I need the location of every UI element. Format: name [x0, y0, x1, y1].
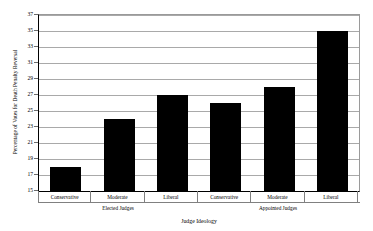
bar-chart: Percentage of Votes for Death Penalty Re…: [0, 0, 373, 231]
category-axis-label: Moderate: [251, 191, 304, 203]
bar: [264, 87, 295, 191]
y-axis-tick-label: 17: [18, 171, 33, 177]
y-axis-tick-label: 23: [18, 123, 33, 129]
bar: [157, 95, 188, 191]
category-axis-label: Liberal: [145, 191, 198, 203]
y-axis-tick-label: 31: [18, 59, 33, 65]
y-axis-tick-label: 37: [18, 11, 33, 17]
group-axis-label: Elected Judges: [38, 203, 198, 214]
y-axis-tick-label: 29: [18, 75, 33, 81]
category-axis: ConservativeModerateLiberalConservativeM…: [38, 191, 360, 203]
y-axis-tick-labels: 373533312927252321191715: [18, 14, 33, 190]
y-axis-tick-label: 27: [18, 91, 33, 97]
bar: [104, 119, 135, 191]
bar: [210, 103, 241, 191]
plot-area: [38, 14, 360, 192]
category-axis-label: Liberal: [305, 191, 358, 203]
y-axis-tick-label: 21: [18, 139, 33, 145]
group-axis-label: Appointed Judges: [198, 203, 358, 214]
bars-layer: [39, 15, 359, 191]
y-axis-tick-label: 25: [18, 107, 33, 113]
group-axis: Elected JudgesAppointed Judges: [38, 203, 360, 214]
bar: [50, 167, 81, 191]
y-axis-tick-label: 33: [18, 43, 33, 49]
category-axis-label: Conservative: [198, 191, 251, 203]
x-axis-title: Judge Ideology: [38, 216, 360, 226]
category-axis-label: Moderate: [91, 191, 144, 203]
y-axis-tick-label: 15: [18, 187, 33, 193]
category-axis-label: Conservative: [38, 191, 91, 203]
bar: [317, 31, 348, 191]
y-axis-tick-label: 19: [18, 155, 33, 161]
y-axis-tick-label: 35: [18, 27, 33, 33]
